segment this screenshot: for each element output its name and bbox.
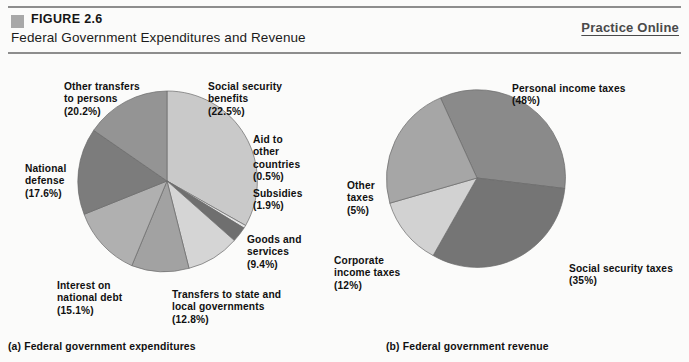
- label-national-defense: National defense (17.6%): [25, 163, 66, 200]
- label-interest-on-national-debt: Interest on national debt (15.1%): [57, 280, 122, 317]
- label-other-transfers-to-persons: Other transfers to persons (20.2%): [64, 81, 140, 118]
- header-rule-top: [8, 6, 681, 8]
- caption-expenditures: (a) Federal government expenditures: [8, 341, 196, 352]
- practice-online-link[interactable]: Practice Online: [581, 20, 679, 35]
- label-transfers-to-state-and-local: Transfers to state and local governments…: [172, 289, 281, 326]
- label-social-security-benefits: Social security benefits (22.5%): [208, 81, 282, 118]
- figure-title: Federal Government Expenditures and Reve…: [11, 30, 306, 45]
- figure-header: FIGURE 2.6 Federal Government Expenditur…: [0, 0, 689, 58]
- label-aid-to-other-countries: Aid to other countries (0.5%): [253, 134, 300, 184]
- caption-revenue: (b) Federal government revenue: [386, 341, 549, 352]
- pie-chart-revenue: [386, 87, 568, 269]
- pie-slices-revenue: [386, 90, 565, 268]
- label-social-security-taxes: Social security taxes (35%): [569, 263, 673, 288]
- figure-number: FIGURE 2.6: [31, 12, 103, 26]
- chart-area: Other transfers to persons (20.2%) Socia…: [0, 58, 689, 362]
- figure-marker-icon: [11, 15, 24, 28]
- header-rule-bottom: [8, 52, 681, 54]
- label-other-taxes: Other taxes (5%): [347, 180, 375, 217]
- label-subsidies: Subsidies (1.9%): [253, 188, 302, 213]
- label-corporate-income-taxes: Corporate income taxes (12%): [334, 255, 400, 292]
- label-goods-and-services: Goods and services (9.4%): [247, 234, 302, 271]
- label-personal-income-taxes: Personal income taxes (48%): [512, 83, 626, 108]
